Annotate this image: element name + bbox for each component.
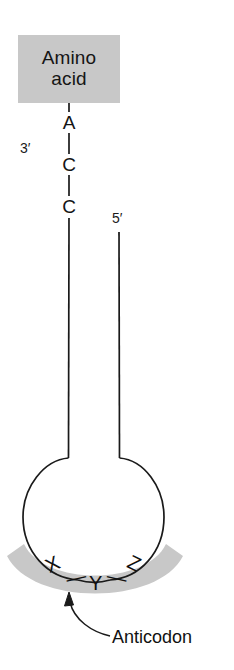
trna-diagram: Amino acid A C C 3′ 5′ X — Y — Z Anticod… [0,0,234,670]
stem-strand-5prime [119,232,120,458]
amino-acid-box-line1: Amino [42,48,96,69]
nucleotide-C-first: C [59,154,79,176]
anticodon-callout-line [70,602,110,636]
label-five-prime-end: 5′ [112,210,122,226]
anticodon-callout-arrowhead [65,592,74,606]
nucleotide-A: A [59,112,79,134]
stem-strand-3prime [69,218,70,458]
amino-acid-box-line2: acid [51,69,86,90]
amino-acid-box: Amino acid [18,35,120,103]
nucleotide-C-second: C [59,196,79,218]
label-three-prime-end: 3′ [20,140,30,156]
anticodon-letter-y: Y [89,572,102,595]
anticodon-callout-label: Anticodon [112,627,192,648]
